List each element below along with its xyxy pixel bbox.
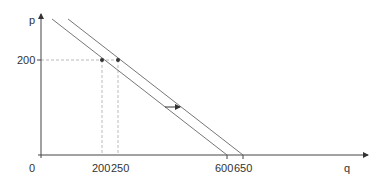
- x-tick-label-650: 650: [234, 162, 252, 174]
- x-tick-label-600: 600: [215, 162, 233, 174]
- x-tick-label-200: 200: [92, 162, 110, 174]
- shift-diagram: p q 0 200 200 250 600 650: [0, 0, 386, 184]
- point-q250-p200: [116, 58, 120, 62]
- x-axis-label: q: [344, 162, 350, 174]
- point-q200-p200: [100, 58, 104, 62]
- y-axis-label: p: [29, 14, 35, 26]
- demand-line-original: [52, 19, 227, 155]
- y-tick-label-200: 200: [17, 54, 35, 66]
- dashed-guides: [41, 60, 118, 155]
- demand-line-shifted: [68, 19, 243, 155]
- x-tick-label-250: 250: [111, 162, 129, 174]
- origin-label: 0: [29, 162, 35, 174]
